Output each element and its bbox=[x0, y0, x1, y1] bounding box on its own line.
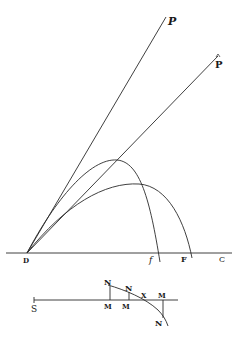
label-D: D bbox=[23, 256, 29, 265]
trajectory-curve-F bbox=[27, 184, 192, 258]
label-P-upper: P bbox=[167, 15, 177, 28]
label-C: C bbox=[219, 255, 225, 264]
trajectory-curve-f bbox=[27, 160, 160, 262]
label-X: X bbox=[141, 291, 147, 300]
label-M-1: M bbox=[104, 302, 112, 311]
label-P-lower: P bbox=[215, 59, 223, 70]
label-S: S bbox=[31, 304, 37, 314]
label-N-3: N bbox=[155, 318, 162, 328]
label-N-2: N bbox=[125, 283, 132, 293]
label-M-3: M bbox=[158, 291, 166, 300]
figure-canvas: P P D f F C S N N X M M M N bbox=[0, 0, 237, 339]
label-f: f bbox=[148, 255, 154, 265]
label-M-2: M bbox=[122, 302, 130, 311]
label-F: F bbox=[181, 254, 187, 264]
line-DP-lower bbox=[27, 56, 218, 253]
label-N-1: N bbox=[104, 277, 111, 287]
